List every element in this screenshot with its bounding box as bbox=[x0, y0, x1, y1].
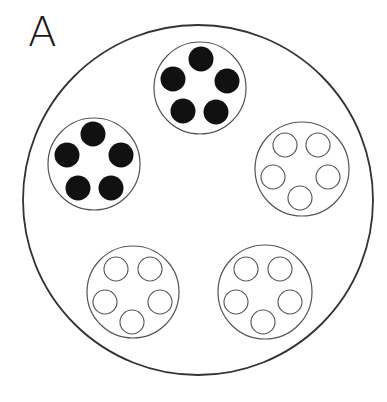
empty-well bbox=[278, 290, 302, 314]
empty-well bbox=[93, 290, 117, 314]
empty-well bbox=[104, 257, 128, 281]
filled-well bbox=[171, 99, 196, 124]
filled-well bbox=[215, 69, 240, 94]
filled-well bbox=[99, 176, 124, 201]
empty-well bbox=[224, 290, 248, 314]
empty-well bbox=[148, 290, 172, 314]
empty-well bbox=[234, 257, 258, 281]
empty-well bbox=[306, 133, 330, 157]
filled-well bbox=[81, 122, 106, 147]
arena-diagram bbox=[0, 0, 387, 402]
dish-bottom-left bbox=[87, 246, 179, 338]
filled-well bbox=[66, 176, 91, 201]
dish-right bbox=[255, 122, 349, 216]
empty-well bbox=[120, 310, 144, 334]
filled-well bbox=[189, 47, 214, 72]
empty-well bbox=[138, 257, 162, 281]
filled-well bbox=[161, 67, 186, 92]
empty-well bbox=[251, 310, 275, 334]
filled-well bbox=[109, 143, 134, 168]
empty-well bbox=[261, 165, 285, 189]
empty-well bbox=[268, 257, 292, 281]
dish-top bbox=[154, 42, 246, 134]
dish-bottom-right bbox=[218, 245, 312, 339]
filled-well bbox=[55, 143, 80, 168]
dish-left bbox=[48, 118, 140, 210]
empty-well bbox=[273, 133, 297, 157]
empty-well bbox=[316, 165, 340, 189]
empty-well bbox=[288, 186, 312, 210]
dish-group bbox=[48, 42, 349, 339]
filled-well bbox=[204, 100, 229, 125]
